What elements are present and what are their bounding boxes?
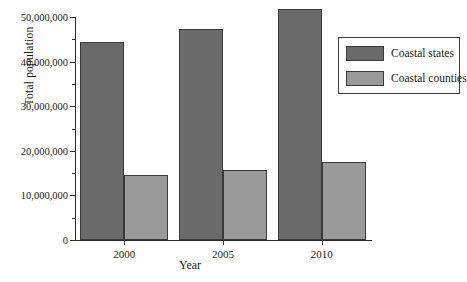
- y-tick-label: 0: [63, 235, 68, 246]
- y-tick-label: 20,000,000: [21, 145, 68, 156]
- y-tick-label: 30,000,000: [21, 101, 68, 112]
- bar-2000-series-1: [124, 175, 168, 240]
- legend-item-series-1: Coastal counties: [346, 70, 467, 86]
- y-tick-label: 10,000,000: [21, 190, 68, 201]
- legend-swatch-coastal-counties: [346, 71, 384, 86]
- x-tick: [322, 240, 323, 245]
- legend-item-series-0: Coastal states: [346, 45, 454, 61]
- legend-swatch-coastal-states: [346, 46, 384, 61]
- x-tick-label-2010: 2010: [311, 248, 333, 260]
- y-tick-label: 40,000,000: [21, 56, 68, 67]
- legend-label-coastal-states: Coastal states: [391, 47, 454, 59]
- bar-series-group: [75, 10, 371, 240]
- y-tick-label: 50,000,000: [21, 12, 68, 23]
- bar-2010-series-0: [278, 9, 322, 240]
- bar-2000-series-0: [80, 42, 124, 240]
- y-tick-major: [70, 240, 75, 241]
- bar-2005-series-0: [179, 29, 223, 240]
- x-tick-label-2005: 2005: [212, 248, 234, 260]
- x-tick-label-2000: 2000: [113, 248, 135, 260]
- bar-2005-series-1: [223, 170, 267, 240]
- x-tick: [223, 240, 224, 245]
- legend-label-coastal-counties: Coastal counties: [391, 72, 467, 84]
- x-axis-label: Year: [0, 258, 380, 273]
- chart-legend: Coastal states Coastal counties: [338, 37, 460, 94]
- x-tick: [124, 240, 125, 245]
- bar-2010-series-1: [322, 162, 366, 240]
- plot-area: 010,000,00020,000,00030,000,00040,000,00…: [75, 10, 371, 240]
